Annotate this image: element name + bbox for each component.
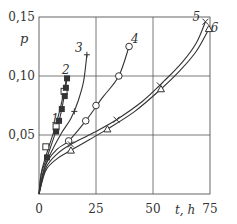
grid-lines [39, 17, 210, 194]
series-label-1: 1 [51, 112, 59, 126]
filled-square-marker [44, 154, 50, 160]
cross-marker [202, 19, 208, 25]
series-markers [43, 19, 213, 161]
open-square-marker [43, 144, 49, 150]
filled-square-marker [53, 128, 59, 134]
plot-frame [39, 17, 210, 194]
plot-border [39, 17, 210, 194]
x-tick-label: 25 [88, 202, 103, 216]
filled-square-marker [62, 93, 68, 99]
filled-square-marker [63, 85, 69, 91]
series-label-3: 3 [75, 41, 83, 55]
plus-marker [71, 108, 77, 114]
plus-marker [84, 52, 90, 58]
x-tick-label: 75 [202, 202, 217, 216]
series-labels: 123456 [51, 10, 219, 127]
open-circle-marker [65, 138, 72, 145]
open-circle-marker [82, 118, 89, 125]
y-tick-label: 0,15 [8, 10, 35, 24]
chart-container: 123456 02550750,050,100,15 p t, h [0, 0, 237, 224]
cross-marker [114, 117, 120, 123]
open-triangle-marker [67, 147, 74, 153]
open-circle-marker [116, 73, 123, 80]
series-label-4: 4 [130, 32, 139, 46]
x-tick-label: 0 [35, 202, 43, 216]
line-chart: 123456 02550750,050,100,15 p t, h [0, 0, 237, 224]
y-tick-label: 0,10 [8, 69, 35, 83]
open-circle-marker [93, 102, 100, 109]
series-label-2: 2 [61, 63, 70, 77]
series-label-5: 5 [192, 10, 200, 24]
y-axis-label: p [20, 31, 29, 46]
x-axis-label: t, h [175, 203, 195, 217]
x-tick-label: 50 [145, 202, 160, 216]
filled-square-marker [59, 106, 65, 112]
series-label-6: 6 [211, 21, 219, 35]
y-tick-label: 0,05 [8, 128, 35, 142]
